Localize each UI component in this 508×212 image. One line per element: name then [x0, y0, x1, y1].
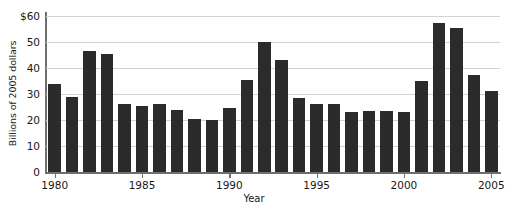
bar [136, 106, 149, 172]
bar [380, 111, 393, 172]
y-tick-label: 30 [4, 89, 40, 100]
bar [485, 91, 498, 172]
bar [241, 80, 254, 172]
y-tick-label: 0 [4, 167, 40, 178]
x-tick-label: 1980 [32, 180, 78, 191]
x-axis-line [45, 172, 501, 174]
bar-chart: Billions of 2005 dollars 01020304050$60 … [0, 0, 508, 212]
bar-series [46, 16, 500, 172]
plot-area [46, 16, 500, 172]
x-tick-label: 1995 [294, 180, 340, 191]
x-tick [404, 173, 405, 178]
bar [310, 104, 323, 172]
x-tick [229, 173, 230, 178]
x-tick-label: 2005 [468, 180, 508, 191]
y-tick-label: 50 [4, 37, 40, 48]
x-tick-label: 1990 [206, 180, 252, 191]
bar [153, 104, 166, 172]
bar [118, 104, 131, 172]
y-tick-label: $60 [4, 11, 40, 22]
bar [398, 112, 411, 172]
bar [415, 81, 428, 172]
x-tick [142, 173, 143, 178]
x-tick [55, 173, 56, 178]
bar [188, 119, 201, 172]
y-tick-label: 20 [4, 115, 40, 126]
bar [450, 28, 463, 172]
bar [48, 84, 61, 172]
y-tick-label: 10 [4, 141, 40, 152]
bar [206, 120, 219, 172]
bar [66, 97, 79, 172]
x-tick-label: 1985 [119, 180, 165, 191]
bar [293, 98, 306, 172]
bar [328, 104, 341, 172]
x-tick-label: 2000 [381, 180, 427, 191]
bar [468, 75, 481, 173]
bar [258, 42, 271, 172]
bar [83, 51, 96, 172]
bar [223, 108, 236, 172]
bar [345, 112, 358, 172]
x-tick [317, 173, 318, 178]
bar [363, 111, 376, 172]
x-axis-title: Year [0, 193, 508, 204]
bar [171, 110, 184, 172]
bar [433, 23, 446, 173]
bar [275, 60, 288, 172]
x-tick [491, 173, 492, 178]
bar [101, 54, 114, 172]
y-tick-label: 40 [4, 63, 40, 74]
